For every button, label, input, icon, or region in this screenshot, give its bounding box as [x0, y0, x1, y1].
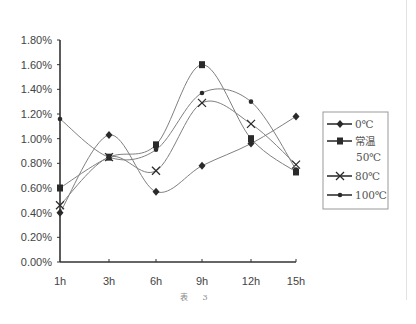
series-0	[57, 112, 300, 216]
y-tick-label: 1.60%	[21, 59, 52, 71]
x-tick-label: 1h	[54, 275, 66, 287]
dot-marker-icon	[107, 155, 112, 160]
y-tick-label: 0.20%	[21, 231, 52, 243]
legend: 0℃常温50℃80℃100℃	[323, 112, 388, 209]
series-lines	[56, 61, 300, 217]
diamond-marker-icon	[57, 209, 64, 217]
square-marker-icon	[57, 185, 63, 192]
y-tick-label: 1.80%	[21, 34, 52, 46]
series-1	[57, 61, 299, 191]
dot-marker-icon	[294, 167, 299, 172]
square-marker-icon	[199, 61, 205, 68]
y-tick-label: 0.00%	[21, 256, 52, 268]
diamond-marker-icon	[106, 131, 113, 139]
x-tick-label: 3h	[103, 275, 115, 287]
x-tick-label: 6h	[150, 275, 162, 287]
legend-label-line2: 50℃	[356, 151, 381, 163]
series-line	[60, 65, 296, 188]
y-tick-label: 1.00%	[21, 133, 52, 145]
line-chart: 0.00%0.20%0.40%0.60%0.80%1.00%1.20%1.40%…	[0, 0, 416, 324]
dot-marker-icon	[200, 91, 205, 96]
y-tick-label: 0.60%	[21, 182, 52, 194]
dot-marker-icon	[58, 117, 63, 122]
page-edge-divider	[406, 0, 407, 300]
x-tick-label: 15h	[287, 275, 305, 287]
legend-label: 常温	[355, 135, 376, 147]
x-tick-label: 12h	[242, 275, 260, 287]
x-tick-label: 9h	[196, 275, 208, 287]
y-tick-label: 1.20%	[21, 108, 52, 120]
legend-label: 80℃	[355, 170, 380, 182]
y-tick-label: 0.40%	[21, 207, 52, 219]
y-tick-label: 0.80%	[21, 157, 52, 169]
y-axis-tick-labels: 0.00%0.20%0.40%0.60%0.80%1.00%1.20%1.40%…	[21, 34, 52, 268]
square-marker-icon	[153, 141, 159, 148]
chart-caption: 表 3	[180, 292, 214, 302]
diamond-marker-icon	[199, 162, 206, 170]
square-marker-icon	[337, 138, 343, 145]
series-line	[60, 101, 296, 205]
legend-label: 100℃	[355, 189, 387, 201]
x-axis-tick-labels: 1h3h6h9h12h15h	[54, 275, 305, 287]
diamond-marker-icon	[293, 112, 300, 120]
dot-marker-icon	[154, 147, 159, 152]
dot-marker-icon	[249, 99, 254, 104]
legend-label: 0℃	[355, 118, 374, 130]
diamond-marker-icon	[153, 188, 160, 196]
square-marker-icon	[248, 135, 254, 142]
dot-marker-icon	[338, 193, 343, 198]
y-tick-label: 1.40%	[21, 83, 52, 95]
